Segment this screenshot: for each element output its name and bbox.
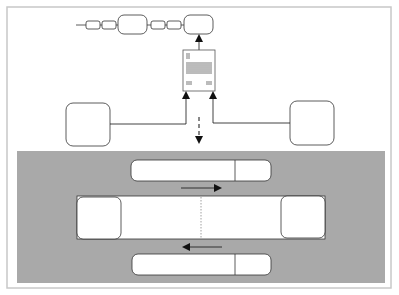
party-a-box [66,103,110,146]
block-large [184,15,213,34]
channel-party-b-box [281,196,325,238]
balance-proof-a [131,160,271,181]
block-small [86,21,100,29]
balance-proof-b [132,254,271,275]
channel-party-a-box [77,197,121,239]
block-large [118,15,147,34]
diagram-canvas [0,0,399,295]
party-b-box [290,101,334,145]
block-small [102,21,116,29]
block-small [167,21,181,29]
document-icon [183,50,215,91]
block-small [151,21,165,29]
